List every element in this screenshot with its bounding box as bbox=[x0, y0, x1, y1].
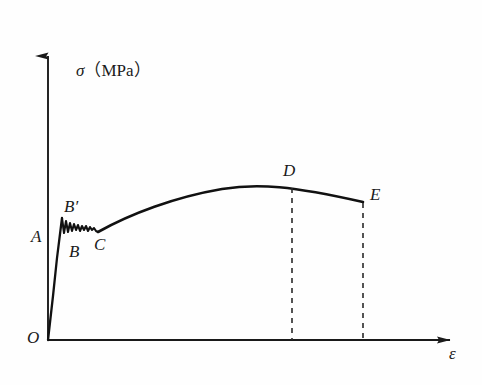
point-label-D: D bbox=[283, 162, 295, 179]
point-label-B: B bbox=[69, 243, 79, 260]
curve-yield-plateau-serrations bbox=[62, 218, 98, 233]
point-label-E: E bbox=[370, 186, 380, 203]
y-axis-label: σ（MPa） bbox=[76, 62, 151, 79]
x-axis-label: ε bbox=[449, 345, 456, 362]
point-label-O: O bbox=[27, 329, 39, 346]
point-label-B-prime: B′ bbox=[64, 198, 78, 215]
stress-strain-diagram bbox=[0, 0, 482, 385]
point-label-C: C bbox=[94, 236, 105, 253]
figure-canvas: σ（MPa） ε O A B′ B C D E bbox=[0, 0, 482, 385]
curve-strain-hardening-arc bbox=[98, 186, 363, 232]
y-axis-unit: （MPa） bbox=[84, 61, 150, 80]
point-label-A: A bbox=[31, 228, 41, 245]
curve-elastic-segment bbox=[48, 218, 62, 340]
